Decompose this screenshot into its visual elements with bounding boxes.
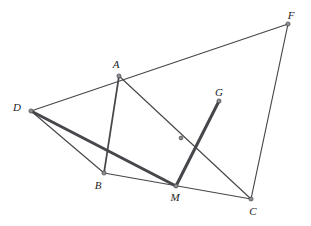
- vertex-point-B: [102, 171, 106, 175]
- point-label-G: G: [215, 87, 223, 98]
- segment-AC: [119, 76, 251, 199]
- vertex-point-C: [249, 197, 253, 201]
- vertex-point-A: [117, 74, 121, 78]
- vertex-point-M: [174, 184, 178, 188]
- vertices-layer: [29, 22, 290, 201]
- point-label-A: A: [113, 59, 120, 70]
- segment-FC: [251, 24, 288, 199]
- vertex-point-intersection: [179, 136, 183, 140]
- vertex-point-G: [217, 99, 221, 103]
- point-label-C: C: [249, 206, 256, 217]
- vertex-point-F: [286, 22, 290, 26]
- segment-AB: [104, 76, 119, 173]
- geometry-figure: D A F G B M C: [0, 0, 311, 226]
- point-label-M: M: [170, 192, 179, 203]
- segment-DF: [31, 24, 288, 111]
- point-label-D: D: [13, 102, 21, 113]
- vertex-point-D: [29, 109, 33, 113]
- figure-canvas: [0, 0, 311, 226]
- segments-layer: [31, 24, 288, 199]
- segment-MG: [176, 101, 219, 186]
- point-label-F: F: [288, 10, 295, 21]
- point-label-B: B: [95, 180, 102, 191]
